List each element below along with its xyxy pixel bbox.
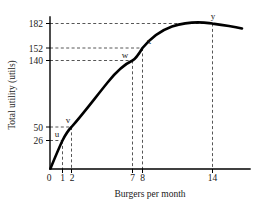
x-tick-label-8: 8 xyxy=(140,173,145,183)
y-tick-label-140: 140 xyxy=(29,56,44,66)
point-label-y: y xyxy=(211,11,216,21)
point-label-w: w xyxy=(122,50,129,60)
x-tick-label-1: 1 xyxy=(60,173,65,183)
y-tick-label-26: 26 xyxy=(34,136,44,146)
x-tick-label-0: 0 xyxy=(47,173,52,183)
y-axis-title: Total utility (utils) xyxy=(7,60,18,130)
point-label-x: x xyxy=(147,36,152,46)
x-tick-label-14: 14 xyxy=(208,173,218,183)
x-tick-label-7: 7 xyxy=(130,173,135,183)
y-tick-label-182: 182 xyxy=(29,19,44,29)
chart-canvas: 182 152 140 50 26 0 1 2 7 8 14 u v w x y… xyxy=(0,0,265,203)
y-tick-label-152: 152 xyxy=(29,44,44,54)
y-tick-label-50: 50 xyxy=(34,123,44,133)
point-label-u: u xyxy=(55,129,60,139)
x-tick-label-2: 2 xyxy=(70,173,75,183)
x-axis-title: Burgers per month xyxy=(114,189,185,199)
point-label-v: v xyxy=(66,115,71,125)
total-utility-chart: 182 152 140 50 26 0 1 2 7 8 14 u v w x y… xyxy=(0,0,265,203)
guide-lines xyxy=(50,24,213,170)
